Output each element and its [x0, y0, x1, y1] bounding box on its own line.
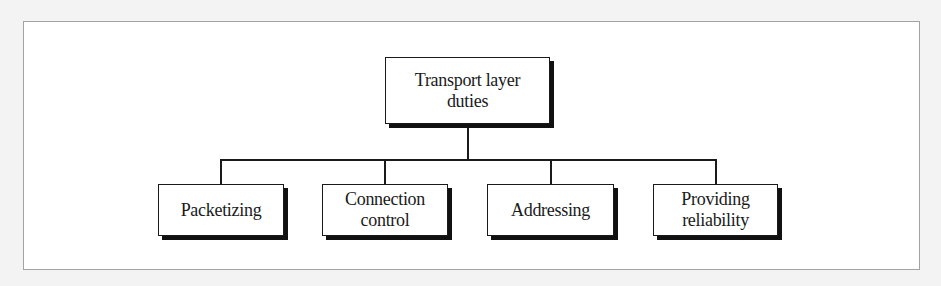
- child-node-label-line1: Connection: [345, 189, 425, 210]
- connector-root-to-bus: [467, 128, 469, 160]
- connector-bus: [220, 159, 717, 161]
- root-node-transport-layer-duties: Transport layer duties: [385, 57, 550, 124]
- connector-to-connection-control: [384, 159, 386, 184]
- child-node-label-line1: Providing: [681, 189, 749, 210]
- connector-to-packetizing: [220, 159, 222, 184]
- child-node-connection-control: Connection control: [322, 184, 448, 236]
- connector-to-addressing: [550, 159, 552, 184]
- root-node-label-line1: Transport layer: [415, 70, 520, 91]
- child-node-label-line2: reliability: [682, 210, 749, 231]
- child-node-providing-reliability: Providing reliability: [653, 184, 778, 236]
- child-node-label-line2: control: [361, 210, 410, 231]
- root-node-label-line2: duties: [447, 91, 488, 112]
- child-node-label-line1: Addressing: [511, 200, 590, 221]
- connector-to-providing-reliability: [715, 159, 717, 184]
- child-node-packetizing: Packetizing: [158, 184, 284, 236]
- child-node-label-line1: Packetizing: [181, 200, 262, 221]
- child-node-addressing: Addressing: [487, 184, 614, 236]
